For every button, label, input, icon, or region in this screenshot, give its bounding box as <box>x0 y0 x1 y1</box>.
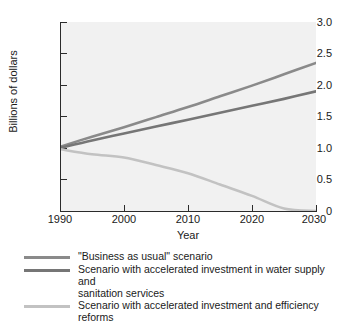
x-tick-label-2020: 2020 <box>222 214 282 225</box>
legend-swatch-icon <box>24 256 70 259</box>
legend-item-business-as-usual: "Business as usual" scenario <box>24 250 332 263</box>
series-line <box>60 63 316 147</box>
chart-legend: "Business as usual" scenario Scenario wi… <box>24 250 332 323</box>
legend-label: Scenario with accelerated investment in … <box>78 263 332 287</box>
x-tick-label-2030: 2030 <box>284 214 337 225</box>
series-line <box>60 91 316 148</box>
legend-label-continuation: sanitation services <box>78 287 332 299</box>
y-axis-title: Billions of dollars <box>8 32 19 152</box>
y-axis-line <box>60 22 61 212</box>
x-axis-line <box>60 211 317 212</box>
legend-item-accelerated-investment: Scenario with accelerated investment in … <box>24 263 332 299</box>
legend-item-efficiency-reforms: Scenario with accelerated investment and… <box>24 299 332 323</box>
legend-swatch-icon <box>24 269 70 272</box>
legend-swatch-icon <box>24 305 70 308</box>
legend-label: Scenario with accelerated investment and… <box>78 299 332 323</box>
x-tick-label-1990: 1990 <box>30 214 90 225</box>
series-svg <box>60 22 316 211</box>
series-line <box>60 149 316 211</box>
x-tick-label-2000: 2000 <box>94 214 154 225</box>
x-axis-title: Year <box>60 230 316 241</box>
series-layer <box>60 22 316 211</box>
legend-label: "Business as usual" scenario <box>78 250 332 262</box>
x-tick-label-2010: 2010 <box>158 214 218 225</box>
